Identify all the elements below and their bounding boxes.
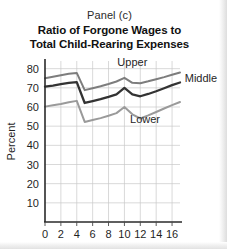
x-tick-label: 4	[74, 228, 80, 240]
x-tick-label: 8	[105, 228, 111, 240]
x-tick-label: 2	[58, 228, 64, 240]
y-tick-label: 60	[27, 101, 39, 113]
page-edge-shadow-right	[219, 0, 227, 249]
x-tick-label: 10	[118, 228, 130, 240]
chart-title-line-2: Total Child-Rearing Expenses	[0, 38, 219, 52]
x-tick-labels: 0246810121416	[42, 228, 178, 240]
y-tick-labels: 1020304050607080	[27, 63, 39, 209]
x-tick-label: 0	[42, 228, 48, 240]
x-tick-label: 14	[150, 228, 162, 240]
chart-title-line-1: Ratio of Forgone Wages to	[0, 24, 219, 38]
series-annotations: UpperMiddleLower	[117, 56, 217, 125]
series-line-middle	[45, 82, 180, 103]
y-tick-label: 30	[27, 159, 39, 171]
series-label-upper: Upper	[117, 56, 147, 68]
y-tick-label: 10	[27, 197, 39, 209]
y-tick-label: 50	[27, 120, 39, 132]
x-tick-label: 12	[134, 228, 146, 240]
figure-panel-c: Panel (c) Ratio of Forgone Wages to Tota…	[0, 0, 219, 242]
y-tick-label: 70	[27, 82, 39, 94]
y-tick-label: 80	[27, 63, 39, 75]
chart-canvas: 1020304050607080 0246810121416 UpperMidd…	[0, 55, 219, 242]
x-tick-label: 6	[90, 228, 96, 240]
y-axis-label: Percent	[5, 123, 17, 161]
chart-title-block: Panel (c) Ratio of Forgone Wages to Tota…	[0, 9, 219, 51]
x-tick-label: 16	[166, 228, 178, 240]
series-label-middle: Middle	[185, 72, 217, 84]
y-tick-label: 20	[27, 178, 39, 190]
y-tick-label: 40	[27, 139, 39, 151]
y-axis-label-text: Percent	[5, 123, 17, 161]
panel-label: Panel (c)	[0, 9, 219, 22]
page-edge-shadow-bottom	[0, 242, 227, 249]
series-label-lower: Lower	[130, 113, 160, 125]
line-chart: 1020304050607080 0246810121416 UpperMidd…	[0, 55, 219, 242]
